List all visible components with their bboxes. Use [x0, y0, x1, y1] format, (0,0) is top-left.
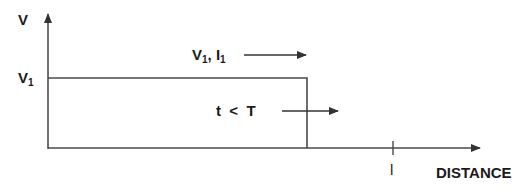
level-label: V1 — [18, 70, 34, 88]
length-tick-label: l — [390, 162, 393, 177]
wave-label: V1, I1 — [192, 47, 226, 65]
wave-label-sep: , — [208, 46, 216, 63]
wave-label-v: V — [192, 46, 202, 63]
level-label-main: V — [18, 69, 28, 86]
voltage-step — [48, 78, 307, 148]
level-label-sub: 1 — [28, 77, 34, 88]
time-condition-label: t < T — [216, 103, 256, 118]
x-axis-label: DISTANCE — [436, 165, 512, 180]
y-axis-label: V — [18, 12, 28, 27]
wave-label-i-sub: 1 — [220, 54, 226, 65]
